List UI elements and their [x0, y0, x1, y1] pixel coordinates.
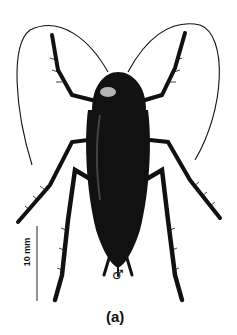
right-middle-leg [150, 140, 220, 218]
right-hind-leg [145, 170, 182, 300]
pronotum-highlight [100, 87, 116, 97]
body [86, 110, 150, 268]
right-cercus [126, 255, 132, 275]
left-hind-leg [55, 170, 92, 300]
left-cercus [104, 255, 110, 275]
right-front-leg [145, 33, 185, 100]
panel-label: (a) [106, 308, 124, 325]
scale-bar-label: 10 mm [22, 232, 36, 272]
pronotum [92, 72, 146, 110]
insect-illustration [0, 0, 237, 335]
left-front-leg [52, 35, 92, 100]
male-symbol: ♂ [112, 267, 124, 282]
